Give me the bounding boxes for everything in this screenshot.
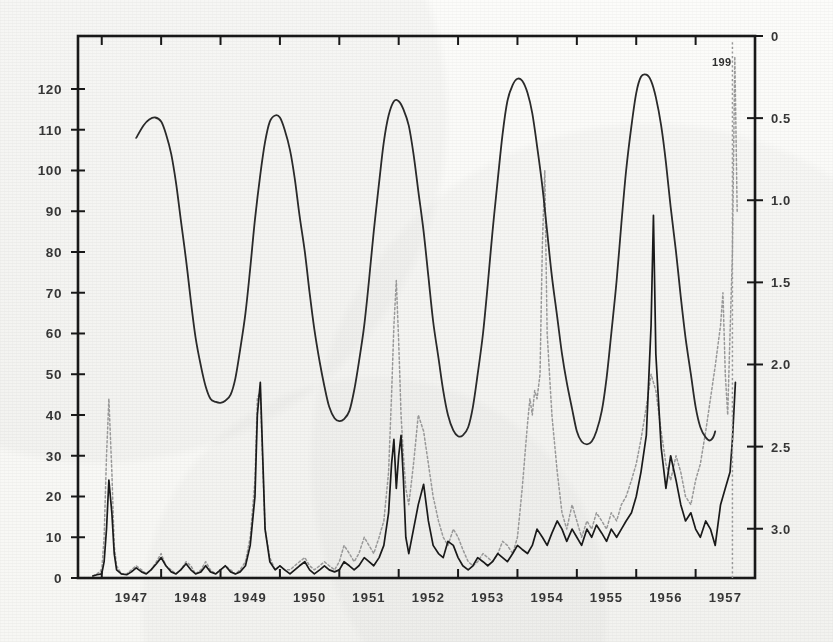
left-axis-labels: 0102030405060708090100110120: [38, 82, 62, 586]
year-label: 1954: [530, 590, 563, 605]
top-axis-ticks: [102, 36, 755, 45]
annotations-layer: 199: [712, 56, 732, 68]
chart-figure: 0102030405060708090100110120 00.51.01.52…: [0, 0, 833, 642]
axis-tick-label: 50: [46, 367, 62, 382]
axes-border: [78, 36, 755, 578]
offscale-value-label: 199: [712, 56, 732, 68]
year-label: 1953: [471, 590, 504, 605]
axis-tick-label: 40: [46, 408, 62, 423]
data-series-layer: [93, 40, 737, 578]
axis-tick-label: 110: [38, 123, 62, 138]
axis-tick-label: 1.0: [771, 193, 791, 208]
series-dark-solid-incidence: [93, 215, 736, 576]
year-label: 1952: [412, 590, 445, 605]
year-label: 1949: [234, 590, 267, 605]
axis-tick-label: 30: [46, 449, 62, 464]
axis-tick-label: 20: [46, 489, 62, 504]
axis-tick-label: 2.0: [771, 357, 791, 372]
axis-tick-label: 3.0: [771, 522, 791, 537]
year-label: 1957: [709, 590, 742, 605]
axis-tick-label: 0: [771, 29, 779, 44]
year-label: 1955: [590, 590, 623, 605]
axis-tick-label: 80: [46, 245, 62, 260]
year-label: 1951: [352, 590, 385, 605]
axis-tick-label: 60: [46, 326, 62, 341]
axis-tick-label: 1.5: [771, 275, 791, 290]
axis-tick-label: 10: [46, 530, 62, 545]
series-smooth-seasonal-curve: [136, 74, 715, 444]
plot-frame: [78, 36, 755, 578]
axis-tick-label: 100: [38, 163, 62, 178]
series-light-dotted-incidence: [93, 56, 737, 576]
axis-tick-label: 0.5: [771, 111, 791, 126]
axis-tick-label: 70: [46, 286, 62, 301]
axis-tick-label: 90: [46, 204, 62, 219]
chart-canvas: 0102030405060708090100110120 00.51.01.52…: [0, 0, 833, 642]
year-label: 1947: [115, 590, 148, 605]
right-axis-labels: 00.51.01.52.02.53.0: [771, 29, 791, 537]
year-label: 1950: [293, 590, 326, 605]
year-label: 1948: [174, 590, 207, 605]
bottom-axis-labels: 1947194819491950195119521953195419551956…: [115, 590, 742, 605]
axis-tick-label: 2.5: [771, 440, 791, 455]
axis-tick-label: 0: [54, 571, 62, 586]
axis-tick-label: 120: [38, 82, 62, 97]
year-label: 1956: [649, 590, 682, 605]
